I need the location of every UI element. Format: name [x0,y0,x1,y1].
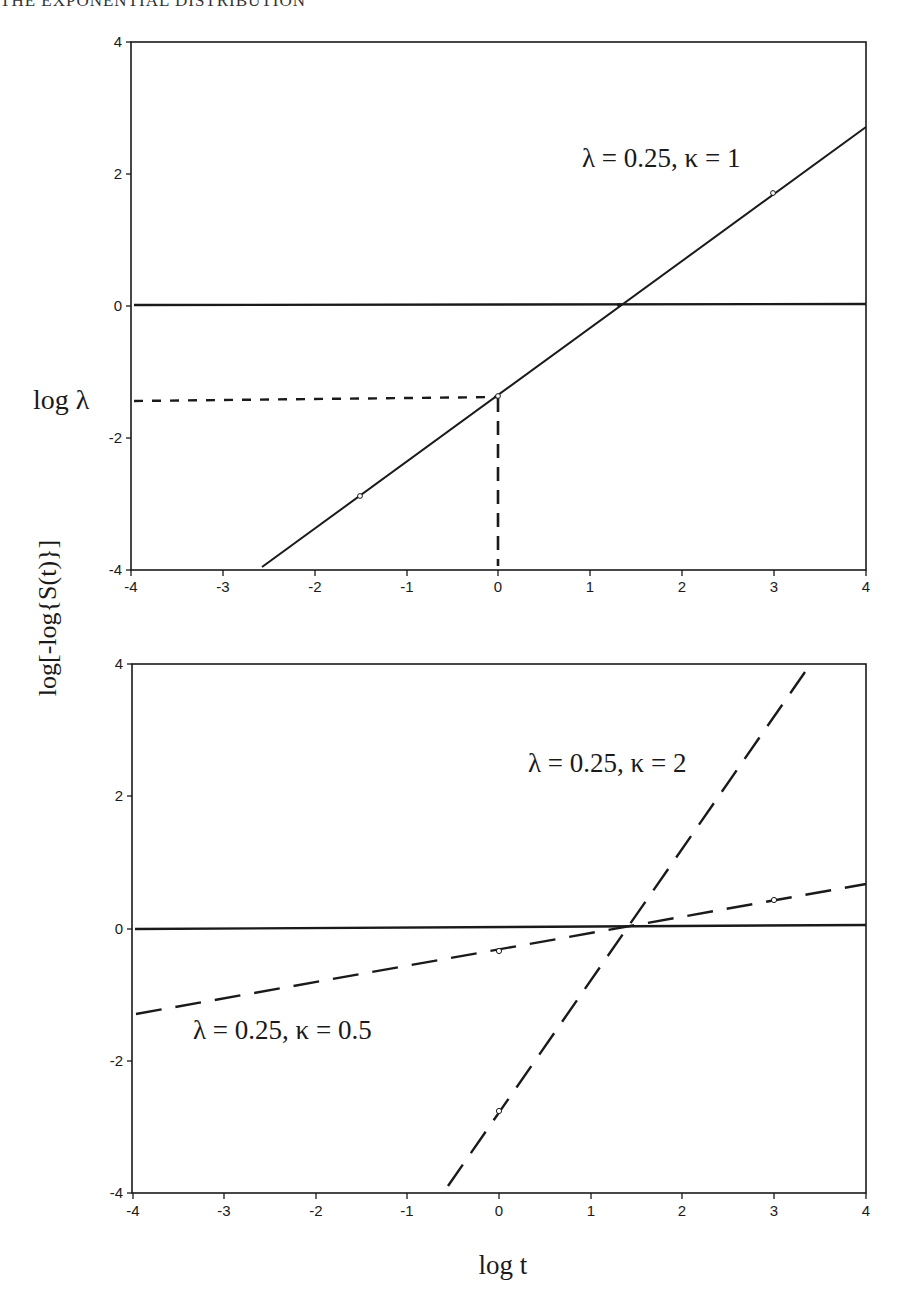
data-point-marker [771,191,776,196]
x-tick-label: 0 [494,578,502,595]
data-point-marker [496,948,501,953]
y-axis-label: log[-log{S(t)}] [33,540,62,696]
y-tick-label: 0 [115,920,123,937]
y-tick-label: -4 [110,1184,123,1201]
x-tick-label: 2 [678,578,686,595]
x-tick-label: -1 [400,1202,413,1219]
y-tick-label: 2 [114,165,122,182]
top-zero-line [134,304,866,305]
x-tick-label: -4 [126,1202,139,1219]
figure: 4 2 0 -2 -4 -4 -3 -2 -1 0 1 2 3 4 [0,0,898,1300]
x-tick-label: -1 [400,578,413,595]
series-k05-label: λ = 0.25, κ = 0.5 [193,1015,372,1045]
x-tick-label: 4 [862,578,870,595]
x-tick-label: 1 [587,1202,595,1219]
bottom-zero-line [135,925,866,929]
x-tick-label: -3 [217,1202,230,1219]
bottom-y-tick-labels: 4 2 0 -2 -4 [110,655,123,1201]
x-tick-label: 4 [862,1202,870,1219]
data-point-marker [496,394,501,399]
x-tick-label: 0 [495,1202,503,1219]
series-k1-label: λ = 0.25, κ = 1 [582,143,740,173]
series-k2-label: λ = 0.25, κ = 2 [528,748,686,778]
y-tick-label: -2 [110,1052,123,1069]
y-tick-label: 4 [115,655,123,672]
bottom-x-ticks [133,1193,866,1199]
x-axis-label: log t [479,1250,528,1280]
y-tick-label: -2 [109,429,122,446]
y-tick-label: 2 [115,787,123,804]
bottom-panel: 4 2 0 -2 -4 -4 -3 -2 -1 0 1 2 3 4 [110,655,871,1219]
data-point-marker [496,1108,501,1113]
data-point-marker [358,494,363,499]
y-tick-label: 4 [114,33,122,50]
x-tick-label: -3 [216,578,229,595]
data-point-marker [771,897,776,902]
log-lambda-dashed-horizontal [134,397,498,401]
top-x-tick-labels: -4 -3 -2 -1 0 1 2 3 4 [124,578,870,595]
top-x-ticks [131,570,866,576]
x-tick-label: -4 [124,578,137,595]
x-tick-label: -2 [308,578,321,595]
x-tick-label: 3 [770,578,778,595]
x-tick-label: -2 [309,1202,322,1219]
data-point-marker [617,303,621,307]
bottom-x-tick-labels: -4 -3 -2 -1 0 1 2 3 4 [126,1202,870,1219]
y-tick-label: -4 [109,561,122,578]
x-tick-label: 1 [586,578,594,595]
y-tick-label: 0 [114,297,122,314]
top-panel: 4 2 0 -2 -4 -4 -3 -2 -1 0 1 2 3 4 [33,33,870,595]
x-tick-label: 2 [678,1202,686,1219]
log-lambda-label: log λ [33,384,90,415]
x-tick-label: 3 [770,1202,778,1219]
top-y-tick-labels: 4 2 0 -2 -4 [109,33,122,578]
